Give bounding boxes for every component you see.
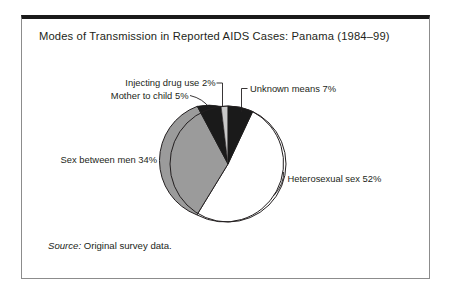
figure-container: Modes of Transmission in Reported AIDS C… <box>0 0 451 308</box>
source-note: Source: Original survey data. <box>48 240 172 251</box>
pie-label-sex-between-men: Sex between men 34% <box>61 154 157 165</box>
pie-label-injecting-drug-use: Injecting drug use 2% <box>125 77 215 88</box>
pie-label-mother-to-child: Mother to child 5% <box>111 90 189 101</box>
leader-line-injecting-drug-use <box>217 83 223 107</box>
source-label: Source: <box>48 240 81 251</box>
source-text: Original survey data. <box>81 240 172 251</box>
pie-label-unknown-means: Unknown means 7% <box>250 83 336 94</box>
pie-chart: Injecting drug use 2% Mother to child 5%… <box>0 0 451 308</box>
pie-label-heterosexual-sex: Heterosexual sex 52% <box>288 173 382 184</box>
